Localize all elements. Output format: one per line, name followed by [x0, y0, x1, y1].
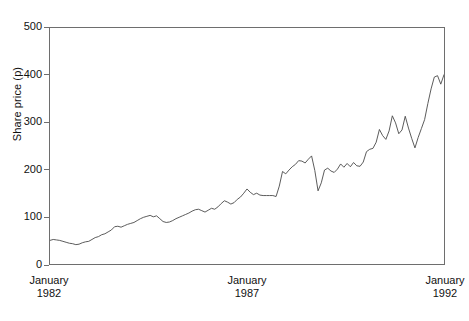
x-tick-month: January [0, 274, 104, 287]
x-tick-month: January [390, 274, 469, 287]
y-tick-label: 0 [2, 258, 42, 270]
y-tick-label: 500 [2, 20, 42, 32]
x-tick-label-1987: January1987 [192, 274, 302, 300]
y-tick-label: 400 [2, 68, 42, 80]
y-tick-label: 200 [2, 163, 42, 175]
y-axis-title: Share price (p) [11, 29, 23, 179]
plot-area [49, 27, 445, 265]
x-tick-label-1992: January1992 [390, 274, 469, 300]
y-tick-label: 100 [2, 210, 42, 222]
x-tick-year: 1987 [192, 287, 302, 300]
x-tick-month: January [192, 274, 302, 287]
x-tick-label-1982: January1982 [0, 274, 104, 300]
y-tick-label: 300 [2, 115, 42, 127]
x-tick-year: 1992 [390, 287, 469, 300]
share-price-line [50, 75, 444, 245]
line-chart-svg [50, 28, 444, 264]
x-tick-year: 1982 [0, 287, 104, 300]
